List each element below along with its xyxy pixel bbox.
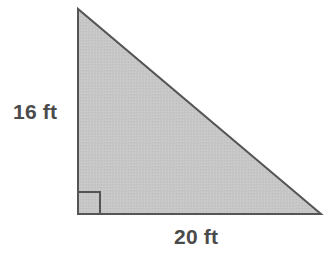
triangle-diagram-canvas	[0, 0, 330, 257]
horizontal-leg-label: 20 ft	[174, 226, 218, 247]
right-triangle-shape	[78, 9, 321, 214]
vertical-leg-label: 16 ft	[13, 101, 57, 122]
triangle-figure: 16 ft 20 ft	[0, 0, 330, 257]
